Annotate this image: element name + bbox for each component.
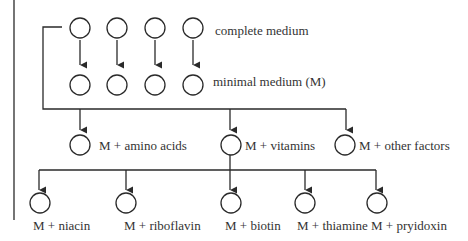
plate-minimal-4	[183, 75, 203, 95]
bracket-connector	[43, 27, 346, 109]
plate-niacin	[30, 193, 50, 213]
niacin-label: M + niacin	[33, 218, 91, 233]
plate-complete-3	[145, 18, 165, 38]
plate-pryidoxin	[367, 193, 387, 213]
replica-plating-diagram: complete medium minimal medium (M) M + a…	[0, 0, 468, 241]
thiamine-label: M + thiamine	[297, 218, 368, 233]
complete-medium-row: complete medium	[70, 18, 309, 38]
supplements-row: M + amino acids M + vitamins M + other f…	[70, 135, 450, 155]
other-factors-label: M + other factors	[359, 138, 450, 153]
pryidoxin-label: M + pryidoxin	[371, 218, 447, 233]
minimal-medium-row: minimal medium (M)	[70, 74, 326, 95]
plate-vitamins	[221, 135, 241, 155]
replica-arrows	[80, 40, 193, 65]
riboflavin-label: M + riboflavin	[124, 218, 201, 233]
biotin-label: M + biotin	[225, 218, 281, 233]
plate-amino-acids	[70, 135, 90, 155]
plate-minimal-3	[145, 75, 165, 95]
amino-acids-label: M + amino acids	[99, 138, 187, 153]
plate-other-factors	[335, 135, 355, 155]
complete-medium-label: complete medium	[215, 23, 309, 38]
vitamins-label: M + vitamins	[245, 138, 315, 153]
plate-minimal-2	[107, 75, 127, 95]
plate-biotin	[221, 193, 241, 213]
minimal-medium-label: minimal medium (M)	[213, 74, 326, 89]
plate-minimal-1	[70, 75, 90, 95]
plate-thiamine	[295, 193, 315, 213]
plate-complete-4	[183, 18, 203, 38]
plate-complete-1	[70, 18, 90, 38]
plate-complete-2	[107, 18, 127, 38]
vitamins-row: M + niacin M + riboflavin M + biotin M +…	[30, 193, 447, 233]
plate-riboflavin	[116, 193, 136, 213]
